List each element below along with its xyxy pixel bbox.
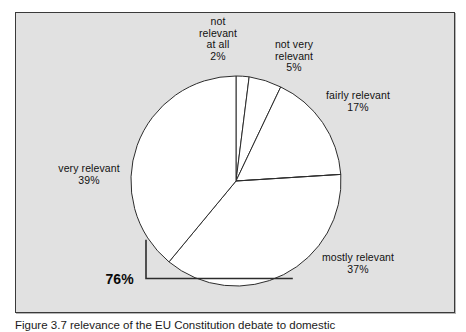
pie-label-value: 37% [347,263,368,275]
pie-label-line-2: relevant [199,27,237,39]
pie-label-value: 39% [78,174,99,186]
pie-label-very-relevant: very relevant 39% [37,163,141,186]
pie-label-line-1: mostly relevant [322,251,394,263]
pie-label-value: 2% [210,50,225,62]
pie-label-line-1: very relevant [58,162,119,174]
pie-label-not-relevant-at-all: not relevant at all 2% [175,16,261,62]
figure-caption: Figure 3.7 relevance of the EU Constitut… [15,318,455,332]
pie-label-mostly-relevant: mostly relevant 37% [303,252,413,275]
pie-label-line-1: fairly relevant [326,89,390,101]
pie-label-value: 5% [286,61,301,73]
pie-label-line-3: at all [207,38,230,50]
pie-label-fairly-relevant: fairly relevant 17% [306,90,410,113]
pie-label-line-2: relevant [275,50,313,62]
pie-label-line-1: not [211,15,226,27]
callout-label-76: 76% [70,271,134,287]
pie-label-not-very-relevant: not very relevant 5% [252,39,336,74]
pie-label-line-1: not very [275,38,313,50]
pie-label-value: 17% [347,101,368,113]
